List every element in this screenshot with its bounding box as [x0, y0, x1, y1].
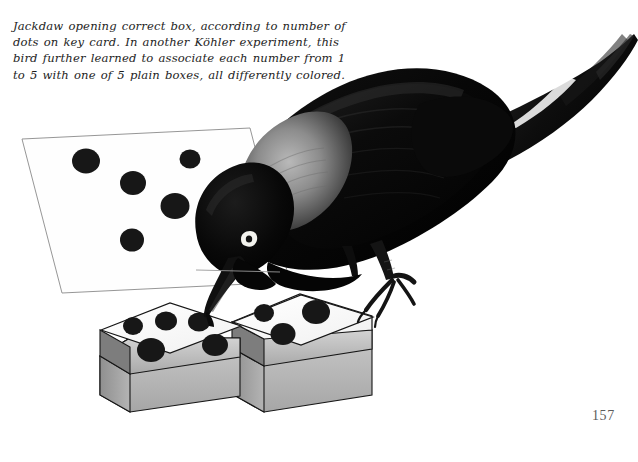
right-box-dot-2 — [302, 300, 330, 324]
key-card-dot-3 — [120, 171, 146, 195]
right-box-dot-1 — [254, 304, 274, 322]
right-box-dot-3 — [271, 323, 296, 345]
jackdaw-illustration — [0, 0, 638, 462]
jackdaw-bird — [195, 34, 638, 327]
left-box-dot-2 — [155, 312, 177, 331]
left-box-dot-4 — [137, 338, 165, 362]
key-card-dot-4 — [161, 193, 190, 219]
left-box-dot-5 — [202, 334, 228, 356]
page-number: 157 — [592, 408, 615, 424]
right-box[interactable] — [232, 294, 373, 412]
key-card-dot-5 — [120, 229, 144, 252]
key-card-dot-2 — [180, 150, 201, 169]
key-card-dot-1 — [72, 149, 100, 174]
book-page: Jackdaw opening correct box, according t… — [0, 0, 638, 462]
left-box[interactable] — [100, 303, 241, 412]
left-box-dot-1 — [123, 317, 143, 335]
